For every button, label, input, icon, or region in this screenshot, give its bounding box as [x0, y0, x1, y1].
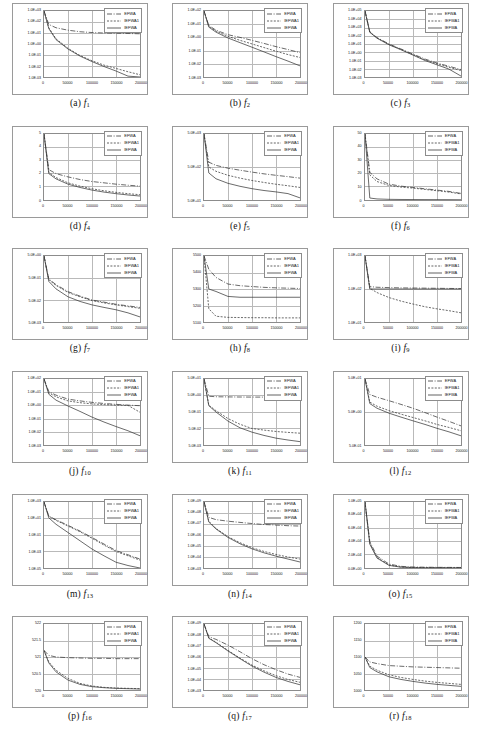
y-tick-label: 20 — [358, 171, 362, 175]
x-axis-a: 050000100000150000200000 — [43, 81, 141, 89]
y-tick-label: 1.0E-01 — [28, 53, 41, 57]
y-tick-label: 1.0E+05 — [188, 667, 202, 671]
x-tick-label: 150000 — [431, 326, 443, 330]
x-tick-label: 0 — [202, 204, 204, 208]
x-axis-k: 050000100000150000200000 — [203, 449, 301, 457]
y-tick-label: 5.0E-02 — [188, 427, 201, 431]
x-tick-label: 200000 — [295, 572, 307, 576]
legend-swatch-icon — [427, 508, 443, 514]
x-tick-label: 200000 — [295, 204, 307, 208]
x-tick-label: 200000 — [135, 694, 147, 698]
x-axis-j: 050000100000150000200000 — [43, 449, 141, 457]
legend-swatch-icon — [106, 11, 122, 17]
y-tick-label: 1.0E-02 — [349, 68, 362, 72]
legend-item-IEFWA1: IEFWA1 — [427, 385, 460, 392]
x-tick-label: 50000 — [383, 694, 393, 698]
plot-panel-l: 5.0E+015.0E+005.0E-01EFWAIEFWA1IEFWA0500… — [333, 371, 469, 463]
plot-panel-h: 55005400530052005100EFWAIEFWA1IEFWA05000… — [172, 248, 308, 340]
x-axis-e: 050000100000150000200000 — [203, 204, 301, 212]
plot-panel-o: 1.0E+058.0E+046.0E+044.0E+042.0E+040.0E+… — [333, 494, 469, 586]
plot-panel-r: 12001150110010501000EFWAIEFWA1IEFWA05000… — [333, 616, 469, 708]
legend-label: IEFWA — [445, 392, 458, 398]
x-tick-label: 50000 — [223, 449, 233, 453]
legend-item-IEFWA1: IEFWA1 — [106, 262, 139, 269]
legend-label: EFWA — [124, 133, 135, 139]
legend-label: IEFWA1 — [284, 140, 299, 146]
caption-function-name: f8 — [244, 343, 250, 353]
legend-swatch-icon — [106, 18, 122, 24]
x-tick-label: 100000 — [407, 572, 419, 576]
subplot-caption-h: (h) f8 — [230, 343, 251, 353]
subplot-caption-b: (b) f2 — [230, 98, 251, 108]
series-line-IEFWA1 — [365, 657, 461, 684]
legend-item-IEFWA: IEFWA — [427, 515, 460, 522]
caption-function-name: f7 — [84, 343, 90, 353]
x-axis-c: 050000100000150000200000 — [364, 81, 462, 89]
caption-function-name: f10 — [81, 466, 91, 476]
x-tick-label: 200000 — [295, 694, 307, 698]
y-tick-label: 1.0E+02 — [188, 8, 202, 12]
legend-item-EFWA: EFWA — [427, 10, 460, 17]
caption-letter: (j) — [69, 466, 79, 476]
legend-label: IEFWA — [445, 515, 458, 521]
caption-letter: (n) — [228, 589, 240, 599]
y-tick-label: 5.0E-01 — [188, 410, 201, 414]
plot-panel-q: 1.0E+091.0E+081.0E+071.0E+061.0E+051.0E+… — [172, 616, 308, 708]
legend-swatch-icon — [266, 378, 282, 384]
legend-swatch-icon — [427, 140, 443, 146]
legend-swatch-icon — [106, 508, 122, 514]
caption-letter: (g) — [70, 343, 82, 353]
x-tick-label: 0 — [202, 326, 204, 330]
y-tick-label: 1.0E+07 — [188, 521, 202, 525]
y-tick-label: 1.0E-02 — [28, 430, 41, 434]
x-tick-label: 150000 — [111, 326, 123, 330]
y-tick-label: 5.0E+01 — [348, 376, 362, 380]
legend-item-IEFWA1: IEFWA1 — [427, 17, 460, 24]
x-axis-b: 050000100000150000200000 — [203, 81, 301, 89]
legend-h: EFWAIEFWA1IEFWA — [264, 253, 302, 278]
y-tick-label: 0 — [39, 199, 41, 203]
y-tick-label: 1100 — [354, 655, 362, 659]
legend-swatch-icon — [106, 25, 122, 31]
legend-label: IEFWA1 — [445, 140, 460, 146]
legend-label: IEFWA — [124, 25, 137, 31]
x-tick-label: 200000 — [456, 572, 468, 576]
x-tick-label: 100000 — [86, 449, 98, 453]
y-tick-label: 0 — [360, 199, 362, 203]
legend-label: IEFWA — [124, 638, 137, 644]
legend-d: EFWAIEFWA1IEFWA — [104, 131, 142, 156]
x-tick-label: 150000 — [111, 694, 123, 698]
y-tick-label: 1.0E-01 — [188, 49, 201, 53]
x-tick-label: 50000 — [383, 449, 393, 453]
x-tick-label: 50000 — [383, 326, 393, 330]
x-tick-label: 50000 — [63, 449, 73, 453]
caption-function-name: f6 — [404, 221, 410, 231]
y-tick-label: 1.0E+03 — [188, 689, 202, 693]
subplot-r: 12001150110010501000EFWAIEFWA1IEFWA05000… — [320, 613, 481, 736]
legend-label: EFWA — [124, 11, 135, 17]
legend-item-IEFWA1: IEFWA1 — [427, 262, 460, 269]
x-tick-label: 0 — [202, 572, 204, 576]
legend-label: IEFWA1 — [445, 631, 460, 637]
y-tick-label: 1.0E+06 — [188, 533, 202, 537]
legend-item-IEFWA1: IEFWA1 — [427, 630, 460, 637]
subplot-caption-l: (l) f12 — [390, 466, 412, 476]
x-tick-label: 50000 — [63, 204, 73, 208]
y-tick-label: 1.0E+05 — [348, 499, 362, 503]
subplot-caption-o: (o) f15 — [388, 589, 412, 599]
y-tick-label: 1.0E+02 — [28, 19, 42, 23]
x-axis-p: 050000100000150000200000 — [43, 694, 141, 702]
legend-item-IEFWA1: IEFWA1 — [266, 17, 299, 24]
legend-item-IEFWA: IEFWA — [427, 269, 460, 276]
legend-e: EFWAIEFWA1IEFWA — [264, 131, 302, 156]
legend-label: IEFWA1 — [445, 18, 460, 24]
y-tick-label: 1.0E+08 — [188, 510, 202, 514]
legend-label: IEFWA — [124, 270, 137, 276]
caption-function-name: f12 — [402, 466, 412, 476]
series-line-EFWA — [44, 651, 140, 659]
legend-item-EFWA: EFWA — [266, 501, 299, 508]
x-tick-label: 200000 — [456, 81, 468, 85]
y-tick-label: 1.0E+01 — [348, 321, 362, 325]
plot-panel-m: 1.0E+031.0E+011.0E-011.0E-031.0E-05EFWAI… — [12, 494, 148, 586]
caption-letter: (a) — [70, 98, 81, 108]
